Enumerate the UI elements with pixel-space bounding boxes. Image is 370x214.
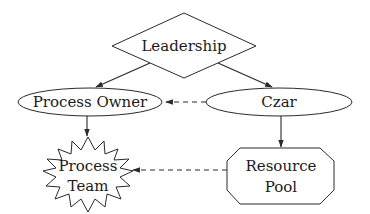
node-resource-pool-label-line1: Resource (245, 157, 316, 175)
edge-leadership-to-process-owner (96, 63, 150, 87)
node-leadership-label: Leadership (141, 37, 226, 55)
node-resource-pool[interactable]: Resource Pool (227, 148, 334, 204)
node-process-owner-label: Process Owner (33, 93, 148, 111)
node-process-owner[interactable]: Process Owner (18, 88, 162, 116)
node-process-team-label-line2: Team (68, 177, 109, 195)
node-process-team[interactable]: Process Team (43, 137, 133, 212)
node-resource-pool-label-line2: Pool (265, 178, 298, 196)
node-process-team-label-line1: Process (59, 157, 118, 175)
node-leadership[interactable]: Leadership (112, 13, 256, 78)
edge-leadership-to-czar (218, 63, 272, 87)
node-czar[interactable]: Czar (206, 88, 352, 116)
org-diagram: Leadership Process Owner Czar Process Te… (0, 0, 370, 214)
node-czar-label: Czar (261, 93, 297, 111)
